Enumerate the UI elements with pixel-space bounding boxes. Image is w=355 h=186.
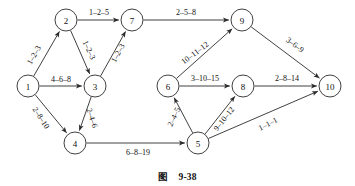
node-label-6: 6 xyxy=(166,82,171,92)
node-6[interactable]: 6 xyxy=(157,75,179,97)
figure-container: 12345678910 1–2–34–6–82–8–101–2–31–2–52–… xyxy=(0,0,355,186)
edge-label-6-to-8: 3–10–15 xyxy=(191,74,219,83)
figure-caption: 图9-38 xyxy=(0,169,355,183)
node-label-3: 3 xyxy=(93,82,98,92)
node-5[interactable]: 5 xyxy=(187,132,209,154)
edge-label-2-to-3: 1–2–3 xyxy=(81,39,98,61)
edge-label-1-to-4: 2–8–10 xyxy=(31,105,52,130)
node-7[interactable]: 7 xyxy=(121,9,143,31)
node-1[interactable]: 1 xyxy=(17,75,39,97)
edge-label-1-to-2: 1–2–3 xyxy=(25,44,43,66)
node-label-5: 5 xyxy=(196,139,201,149)
edge-label-7-to-9: 2–5–8 xyxy=(176,8,196,17)
node-label-4: 4 xyxy=(73,139,78,149)
edge-9-to-10 xyxy=(251,27,319,78)
edge-label-9-to-10: 3–6–9 xyxy=(284,35,305,54)
node-10[interactable]: 10 xyxy=(319,75,341,97)
caption-number: 9-38 xyxy=(178,172,196,182)
node-label-7: 7 xyxy=(130,16,135,26)
edge-label-5-to-10: 1–1–1 xyxy=(257,115,279,132)
node-label-10: 10 xyxy=(326,82,336,92)
network-diagram: 12345678910 1–2–34–6–82–8–101–2–31–2–52–… xyxy=(0,0,355,186)
node-2[interactable]: 2 xyxy=(55,9,77,31)
node-9[interactable]: 9 xyxy=(231,9,253,31)
node-label-8: 8 xyxy=(241,82,246,92)
node-label-1: 1 xyxy=(26,82,31,92)
edge-label-5-to-8: 9–10–12 xyxy=(212,105,236,133)
edge-label-4-to-5: 6–8–19 xyxy=(126,148,150,157)
edge-label-3-to-4: 2–4–6 xyxy=(85,107,100,129)
edge-label-8-to-10: 2–8–14 xyxy=(275,74,299,83)
node-8[interactable]: 8 xyxy=(232,75,254,97)
edge-6-to-9 xyxy=(177,29,233,79)
node-3[interactable]: 3 xyxy=(84,75,106,97)
edge-label-2-to-7: 1–2–5 xyxy=(89,8,109,17)
node-label-2: 2 xyxy=(64,16,69,26)
edge-label-3-to-7: 1–2–3 xyxy=(109,42,126,64)
node-label-9: 9 xyxy=(240,16,245,26)
caption-label: 图 xyxy=(158,172,168,182)
edge-label-1-to-3: 4–6–8 xyxy=(51,75,71,84)
edge-label-5-to-6: 2–4–5 xyxy=(166,106,183,128)
node-4[interactable]: 4 xyxy=(64,132,86,154)
